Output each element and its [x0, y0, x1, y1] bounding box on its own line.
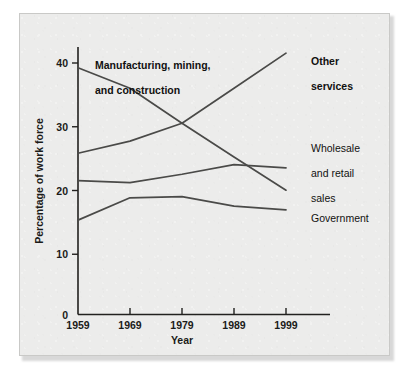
x-axis-title: Year: [171, 334, 193, 346]
y-tick-label-10: 10: [56, 248, 68, 260]
series-line-government: [78, 197, 286, 221]
series-label-government: Government: [311, 212, 401, 225]
x-tick-label-1979: 1979: [170, 319, 194, 331]
x-axis: [78, 308, 330, 315]
y-axis: [72, 47, 78, 315]
y-axis-title: Percentage of work force: [33, 118, 45, 244]
y-tick-label-40: 40: [56, 57, 68, 69]
y-tick-label-20: 20: [56, 185, 68, 197]
y-tick-label-30: 30: [56, 121, 68, 133]
series-label-other-services: Other services: [311, 42, 391, 92]
series-label-other-services-line2: services: [311, 80, 353, 92]
series-label-manufacturing-line2: and construction: [95, 84, 180, 96]
x-tick-label-1989: 1989: [222, 319, 246, 331]
x-tick-label-1999: 1999: [274, 319, 298, 331]
series-line-wholesale-retail: [78, 165, 286, 183]
series-label-other-services-line1: Other: [311, 55, 339, 67]
series-label-wholesale-line3: sales: [311, 192, 336, 204]
series-label-wholesale-line1: Wholesale: [311, 142, 360, 154]
figure-root: 40 30 20 10 0 1959 1969 1979 1989 1999 Y…: [0, 0, 412, 377]
series-label-manufacturing: Manufacturing, mining, and construction: [95, 46, 245, 96]
x-tick-label-1969: 1969: [118, 319, 142, 331]
series-label-wholesale-retail: Wholesale and retail sales: [311, 129, 391, 204]
series-label-wholesale-line2: and retail: [311, 167, 354, 179]
x-tick-label-1959: 1959: [66, 319, 90, 331]
series-label-manufacturing-line1: Manufacturing, mining,: [95, 59, 211, 71]
